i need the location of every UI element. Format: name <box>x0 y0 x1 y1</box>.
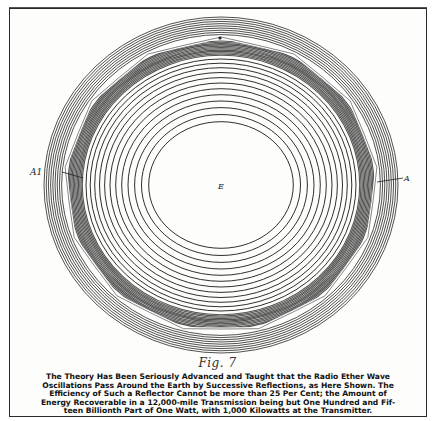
figure-caption: The Theory Has Been Seriously Advanced a… <box>24 373 412 416</box>
left-marker: A1 <box>29 167 42 177</box>
figure-label: Fig. 7 <box>0 356 435 370</box>
caption-line: teen Billionth Part of One Watt, with 1,… <box>24 407 412 416</box>
center-marker-earth: E <box>217 182 224 191</box>
top-reflection-point <box>218 36 221 39</box>
right-marker: A <box>403 174 410 183</box>
right-marker-leader <box>377 178 403 182</box>
